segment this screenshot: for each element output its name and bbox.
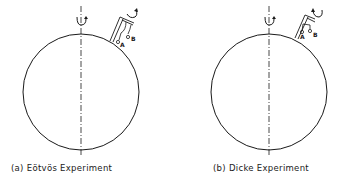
label-a: A — [300, 33, 305, 40]
ball-b — [308, 29, 311, 32]
label-a: A — [120, 41, 125, 48]
torsion-balance-apparatus: A B — [295, 15, 318, 40]
panel-a: A B — [23, 6, 139, 157]
torsion-balance-apparatus: A B — [110, 17, 136, 48]
caption-a: (a) Eötvös Experiment — [11, 163, 112, 173]
ball-b — [126, 35, 129, 38]
label-b: B — [131, 35, 136, 42]
caption-b: (b) Dicke Experiment — [213, 163, 309, 173]
diagram-canvas: A B A B — [0, 0, 345, 183]
panel-b: A B — [211, 6, 327, 157]
label-b: B — [313, 31, 318, 38]
